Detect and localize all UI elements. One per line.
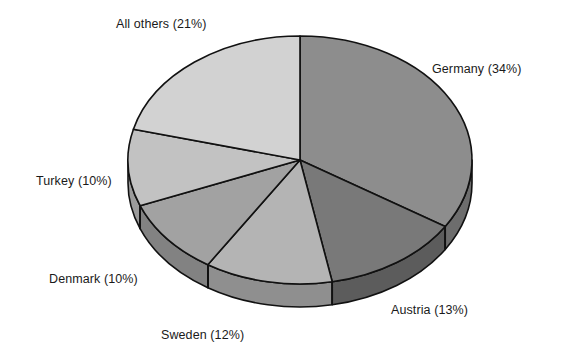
- slice-label-all-others: All others (21%): [116, 17, 207, 31]
- pie-top-slices: [128, 36, 472, 284]
- slice-label-denmark: Denmark (10%): [49, 272, 138, 286]
- slice-label-germany: Germany (34%): [432, 62, 522, 76]
- slice-label-sweden: Sweden (12%): [161, 328, 244, 342]
- slice-label-austria: Austria (13%): [391, 303, 468, 317]
- pie-chart-figure: All others (21%) Germany (34%) Austria (…: [0, 0, 584, 363]
- slice-label-turkey: Turkey (10%): [36, 174, 112, 188]
